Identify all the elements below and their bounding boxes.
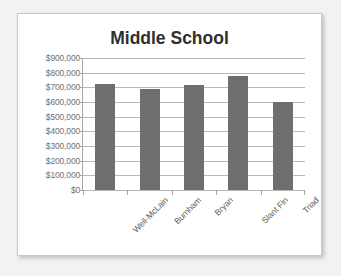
- bar: [140, 89, 160, 190]
- y-axis-tick-label: $100,000: [46, 170, 80, 180]
- chart-plot-wrapper: $900,000$800,000$700,000$600,000$500,000…: [18, 14, 323, 257]
- y-axis-tick-label: $500,000: [46, 112, 80, 122]
- y-axis-tick-label: $700,000: [46, 82, 80, 92]
- x-axis-category-label: Bryan: [212, 195, 235, 218]
- y-axis-tick-label: $900,000: [46, 53, 80, 63]
- screenshot-canvas: Middle School $900,000$800,000$700,000$6…: [0, 0, 341, 276]
- y-axis-tick-label: $800,000: [46, 68, 80, 78]
- bar: [273, 102, 293, 190]
- x-axis-category-label: Weil-McLain: [131, 195, 171, 235]
- x-axis-category-labels: Weil-McLainBurnhamBryanSlant FinTriad: [83, 195, 305, 253]
- bar: [228, 76, 248, 190]
- y-axis-tick-label: $600,000: [46, 97, 80, 107]
- x-axis-category-label: Burnham: [172, 195, 203, 226]
- x-axis-category-label: Triad: [300, 195, 320, 215]
- y-axis-tick-label: $400,000: [46, 126, 80, 136]
- y-axis-tick-labels: $900,000$800,000$700,000$600,000$500,000…: [20, 58, 80, 190]
- gridline: [83, 190, 305, 191]
- chart-card: Middle School $900,000$800,000$700,000$6…: [17, 13, 322, 256]
- bar-series: [83, 58, 305, 190]
- y-axis-tick-label: $200,000: [46, 156, 80, 166]
- plot-area: [83, 58, 305, 190]
- bar: [95, 84, 115, 190]
- bar: [184, 85, 204, 190]
- x-axis-category-label: Slant Fin: [260, 195, 290, 225]
- y-axis-tick-label: $300,000: [46, 141, 80, 151]
